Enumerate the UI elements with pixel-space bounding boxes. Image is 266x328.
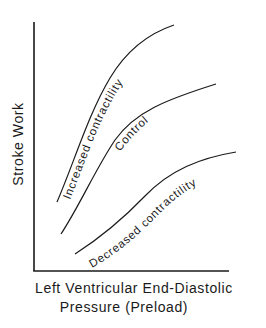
diagram-canvas: Increased contractility Control Decrease… (0, 0, 266, 328)
frank-starling-diagram: Increased contractility Control Decrease… (0, 0, 266, 328)
label-control: Control (112, 113, 150, 153)
label-control-text: Control (112, 113, 150, 153)
x-axis-label-line2: Pressure (Preload) (60, 299, 188, 315)
x-axis-label-line1: Left Ventricular End-Diastolic (35, 280, 233, 296)
label-decreased-contractility: Decreased contractility (87, 176, 198, 270)
y-axis-label: Stroke Work (10, 102, 26, 186)
label-decreased-text: Decreased contractility (87, 176, 198, 270)
